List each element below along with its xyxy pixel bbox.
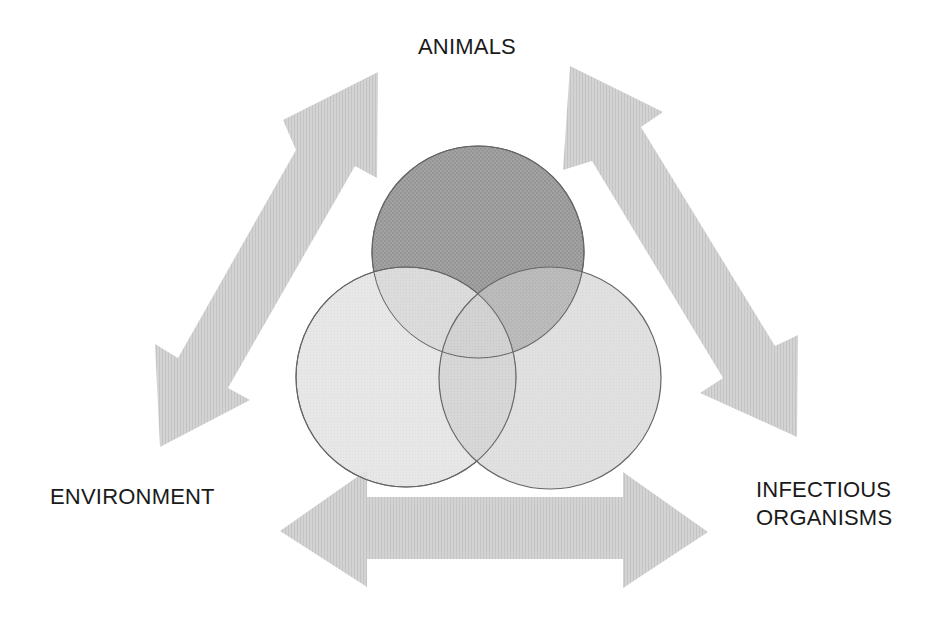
label-infectious-line1: INFECTIOUS — [756, 476, 892, 504]
label-animals: ANIMALS — [418, 33, 516, 61]
venn-diagram — [296, 146, 661, 489]
arrow-environment-infectious-organisms — [280, 470, 708, 588]
label-infectious-organisms: INFECTIOUS ORGANISMS — [756, 476, 892, 532]
label-environment: ENVIRONMENT — [50, 483, 215, 511]
circle-infectious-organisms — [439, 267, 661, 489]
label-infectious-line2: ORGANISMS — [756, 504, 892, 532]
